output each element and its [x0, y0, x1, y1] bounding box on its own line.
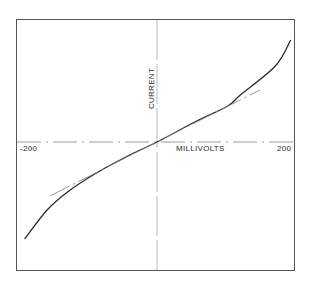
y-axis-label: CURRENT [147, 64, 156, 114]
x-tick-min: -200 [20, 144, 37, 153]
iv-curve [25, 40, 291, 239]
x-tick-max: 200 [277, 144, 291, 153]
series-layer [25, 40, 291, 239]
plot-frame [17, 20, 295, 271]
x-axis-label: MILLIVOLTS [176, 144, 225, 153]
iv-curve-chart [0, 0, 313, 283]
